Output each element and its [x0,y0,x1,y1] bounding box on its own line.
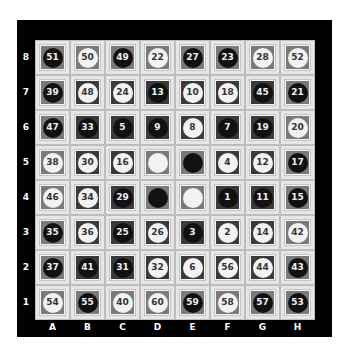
board-square-c8[interactable]: 49 [105,40,140,75]
board-square-g2[interactable]: 44 [245,250,280,285]
board-square-f4[interactable]: 1 [210,180,245,215]
board-square-e8[interactable]: 27 [175,40,210,75]
white-disc-icon: 8 [183,118,203,138]
square-inner: 45 [251,81,274,104]
board-square-c5[interactable]: 16 [105,145,140,180]
board-square-h1[interactable]: 53 [280,285,315,320]
board-square-e6[interactable]: 8 [175,110,210,145]
board-square-c6[interactable]: 5 [105,110,140,145]
white-disc-icon: 38 [43,153,63,173]
white-disc-icon: 44 [253,258,273,278]
board-square-b6[interactable]: 33 [70,110,105,145]
square-inner: 24 [111,81,134,104]
board-square-f5[interactable]: 4 [210,145,245,180]
black-disc-icon: 31 [113,258,133,278]
board-square-b3[interactable]: 36 [70,215,105,250]
board-square-d2[interactable]: 32 [140,250,175,285]
square-inner: 15 [286,186,309,209]
board-square-c4[interactable]: 29 [105,180,140,215]
file-label: D [140,322,175,332]
square-inner: 32 [146,256,169,279]
board-square-f1[interactable]: 58 [210,285,245,320]
board-square-a7[interactable]: 39 [35,75,70,110]
square-inner: 60 [146,291,169,314]
board-square-c1[interactable]: 40 [105,285,140,320]
othello-board: 5150492227232852394824131018452147335987… [35,40,315,320]
board-square-f6[interactable]: 7 [210,110,245,145]
board-square-g6[interactable]: 19 [245,110,280,145]
black-disc-icon: 7 [218,118,238,138]
board-square-a5[interactable]: 38 [35,145,70,180]
board-square-a8[interactable]: 51 [35,40,70,75]
square-inner: 19 [251,116,274,139]
board-square-d1[interactable]: 60 [140,285,175,320]
board-square-d6[interactable]: 9 [140,110,175,145]
square-inner: 20 [286,116,309,139]
square-inner: 53 [286,291,309,314]
white-disc-icon: 58 [218,293,238,313]
square-inner: 5 [111,116,134,139]
black-disc-icon: 41 [78,258,98,278]
board-square-g4[interactable]: 11 [245,180,280,215]
file-label: C [105,322,140,332]
board-square-e7[interactable]: 10 [175,75,210,110]
square-inner: 37 [41,256,64,279]
white-disc-icon [148,153,168,173]
white-disc-icon: 28 [253,48,273,68]
board-square-h6[interactable]: 20 [280,110,315,145]
square-inner [181,186,204,209]
board-square-c3[interactable]: 25 [105,215,140,250]
board-square-a2[interactable]: 37 [35,250,70,285]
board-square-b2[interactable]: 41 [70,250,105,285]
rank-label: 7 [17,87,35,97]
white-disc-icon: 18 [218,83,238,103]
board-square-b1[interactable]: 55 [70,285,105,320]
board-square-b7[interactable]: 48 [70,75,105,110]
board-square-d7[interactable]: 13 [140,75,175,110]
board-square-c7[interactable]: 24 [105,75,140,110]
square-inner: 54 [41,291,64,314]
black-disc-icon: 59 [183,293,203,313]
board-square-a1[interactable]: 54 [35,285,70,320]
board-square-f8[interactable]: 23 [210,40,245,75]
board-square-b5[interactable]: 30 [70,145,105,180]
board-square-f7[interactable]: 18 [210,75,245,110]
square-inner: 43 [286,256,309,279]
board-square-h2[interactable]: 43 [280,250,315,285]
board-square-a4[interactable]: 46 [35,180,70,215]
square-inner: 31 [111,256,134,279]
board-square-e4[interactable] [175,180,210,215]
board-square-d5[interactable] [140,145,175,180]
square-inner: 28 [251,46,274,69]
board-square-b4[interactable]: 34 [70,180,105,215]
board-square-a3[interactable]: 35 [35,215,70,250]
board-square-h4[interactable]: 15 [280,180,315,215]
square-inner: 26 [146,221,169,244]
board-square-e1[interactable]: 59 [175,285,210,320]
board-square-g5[interactable]: 12 [245,145,280,180]
board-square-h7[interactable]: 21 [280,75,315,110]
board-square-d3[interactable]: 26 [140,215,175,250]
board-square-d4[interactable] [140,180,175,215]
board-square-a6[interactable]: 47 [35,110,70,145]
board-square-e3[interactable]: 3 [175,215,210,250]
board-square-f2[interactable]: 56 [210,250,245,285]
board-square-e2[interactable]: 6 [175,250,210,285]
board-square-g1[interactable]: 57 [245,285,280,320]
square-inner: 16 [111,151,134,174]
white-disc-icon [183,188,203,208]
white-disc-icon: 10 [183,83,203,103]
black-disc-icon: 35 [43,223,63,243]
board-square-g7[interactable]: 45 [245,75,280,110]
board-square-h8[interactable]: 52 [280,40,315,75]
board-square-b8[interactable]: 50 [70,40,105,75]
board-square-h3[interactable]: 42 [280,215,315,250]
board-square-c2[interactable]: 31 [105,250,140,285]
board-square-g8[interactable]: 28 [245,40,280,75]
board-square-h5[interactable]: 17 [280,145,315,180]
board-square-f3[interactable]: 2 [210,215,245,250]
board-square-g3[interactable]: 14 [245,215,280,250]
board-square-e5[interactable] [175,145,210,180]
square-inner: 49 [111,46,134,69]
board-square-d8[interactable]: 22 [140,40,175,75]
